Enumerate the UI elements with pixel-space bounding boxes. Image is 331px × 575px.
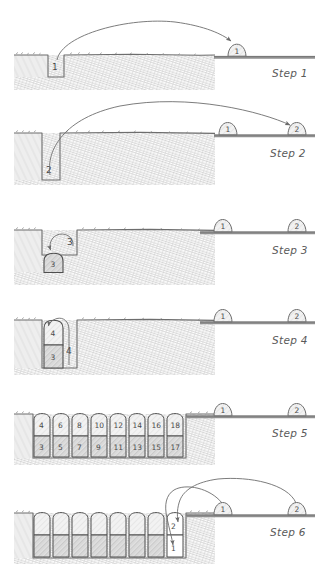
trench-block: 10 (91, 414, 107, 436)
trench-block: 13 (129, 436, 145, 457)
panel-step-5: 4 6 8 10 12 14 (14, 403, 315, 465)
panel-step-2: 2 1 2 Step 2 (14, 102, 315, 185)
block-label: 6 (58, 421, 63, 430)
trench-block: 11 (110, 436, 126, 457)
trench-block: 12 (110, 414, 126, 436)
trench-block (72, 513, 88, 535)
trench-block: 7 (72, 436, 88, 457)
diagram-sheet: 1 1 Step 1 2 1 2 Step 2 3 3 (0, 0, 331, 575)
surface-block-2-label-step3: 2 (295, 222, 300, 231)
trench-block: 5 (53, 436, 69, 457)
block-label: 7 (77, 443, 82, 452)
trench-block (110, 535, 126, 557)
earth-left-step6 (14, 513, 33, 558)
trench-block: 8 (72, 414, 88, 436)
hand-drawn-steps-diagram: 1 1 Step 1 2 1 2 Step 2 3 3 (0, 0, 331, 575)
earth-right-step2 (14, 133, 215, 185)
trench-block: 15 (148, 436, 164, 457)
ground-texture-step5 (16, 411, 208, 413)
block-label: 3 (39, 443, 44, 452)
trench-block: 3 (34, 436, 50, 457)
step-label-3: Step 3 (272, 244, 308, 256)
block-label: 12 (114, 421, 124, 430)
step-label-6: Step 6 (270, 526, 306, 538)
trench-block: 17 (167, 436, 183, 457)
earth-left-step1 (14, 55, 48, 77)
step-label-5: Step 5 (272, 427, 308, 439)
block-label: 5 (58, 443, 63, 452)
trench-block (110, 513, 126, 535)
final-block-1-step6: 1 (167, 535, 183, 557)
pit-number-step1: 1 (52, 62, 58, 72)
arrow-number-step3: 3 (67, 237, 73, 247)
trench-block: 16 (148, 414, 164, 436)
trench-block (148, 513, 164, 535)
panel-step-6: 2 1 1 2 Step 6 (14, 478, 315, 564)
panel-step-3: 3 3 1 2 Step 3 (14, 219, 315, 285)
surface-block-1-label-step4: 1 (221, 312, 226, 321)
earth-left-step3 (14, 230, 42, 272)
trench-block-4-label-step4: 4 (51, 329, 56, 338)
trench-block: 14 (129, 414, 145, 436)
trench-block (129, 513, 145, 535)
final-block-2-step6: 2 (167, 513, 183, 535)
surface-block-1-label-step2: 1 (226, 125, 231, 134)
surface-block-2-label-step6: 2 (295, 505, 300, 514)
surface-block-2-label-step2: 2 (295, 125, 300, 134)
trench-block: 6 (53, 414, 69, 436)
surface-block-1-label-step6: 1 (221, 505, 226, 514)
block-label: 13 (133, 443, 143, 452)
surface-block-2-label-step5: 2 (295, 406, 300, 415)
ground-texture-step6 (16, 510, 208, 512)
block-label: 16 (152, 421, 162, 430)
block-label: 15 (152, 443, 162, 452)
earth-left-step2 (14, 133, 42, 180)
trench-block: 4 (34, 414, 50, 436)
panel-step-4: 4 3 4 1 2 Step 4 (14, 309, 315, 375)
final-block-1-label: 1 (171, 544, 176, 553)
block-label: 9 (96, 443, 101, 452)
trench-block (34, 513, 50, 535)
arrow-number-step4: 4 (66, 346, 72, 356)
trench-block (34, 535, 50, 557)
surface-block-1-label-step3: 1 (221, 222, 226, 231)
trench-block (129, 535, 145, 557)
block-label: 4 (39, 421, 44, 430)
block-label: 8 (77, 421, 82, 430)
block-label: 17 (171, 443, 181, 452)
trench-block (72, 535, 88, 557)
step-label-1: Step 1 (272, 67, 308, 79)
step-label-2: Step 2 (270, 147, 306, 159)
trench-block: 18 (167, 414, 183, 436)
panel-step-1: 1 1 Step 1 (14, 21, 315, 90)
earth-left-step4 (14, 320, 42, 368)
trench-block-3-label-step4: 3 (51, 353, 56, 362)
trench-block (91, 513, 107, 535)
block-label: 10 (95, 421, 105, 430)
block-label: 14 (133, 421, 143, 430)
pit-number-step2: 2 (46, 165, 52, 175)
trench-block: 9 (91, 436, 107, 457)
trench-block (53, 513, 69, 535)
block-label: 11 (114, 443, 124, 452)
trench-block (148, 535, 164, 557)
surface-block-1-label-step1: 1 (235, 47, 240, 56)
trench-block (53, 535, 69, 557)
block-label: 18 (171, 421, 181, 430)
step-label-4: Step 4 (272, 334, 308, 346)
trench-block (91, 535, 107, 557)
surface-block-1-label-step5: 1 (221, 406, 226, 415)
surface-block-2-label-step4: 2 (295, 312, 300, 321)
trench-block-3-label-step3: 3 (51, 260, 56, 269)
final-block-2-label: 2 (171, 522, 176, 531)
earth-left-step5 (14, 414, 33, 458)
